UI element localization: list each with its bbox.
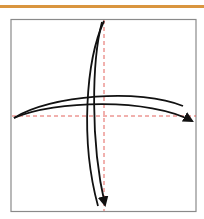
vertical-curve-line: [87, 21, 104, 206]
square-frame: [11, 20, 196, 212]
vertical-curved-arrow: [94, 22, 105, 205]
fold-diagram: [0, 0, 204, 219]
horizontal-curve-line: [14, 96, 183, 118]
